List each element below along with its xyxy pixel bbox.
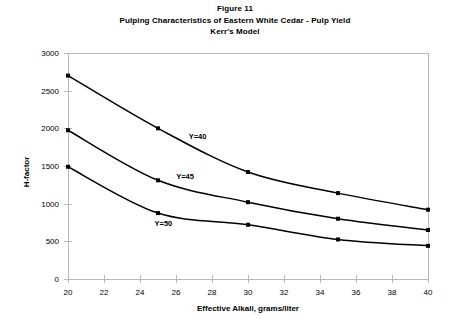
chart-container: Figure 11 Pulping Characteristics of Eas…: [0, 0, 470, 324]
data-point-marker: [426, 228, 430, 232]
x-tick-label: 24: [136, 288, 145, 297]
x-axis-tick-labels: 2022242628303234363840: [64, 288, 433, 297]
series-label-3: Y=50: [155, 219, 173, 228]
x-tick-label: 30: [244, 288, 253, 297]
y-tick-label: 3000: [41, 49, 59, 58]
y-tick-label: 500: [46, 237, 60, 246]
data-point-marker: [66, 74, 70, 78]
data-series-2: [66, 128, 430, 232]
data-series-1: [66, 74, 430, 212]
data-point-marker: [426, 244, 430, 248]
x-tick-label: 36: [352, 288, 361, 297]
data-point-marker: [426, 208, 430, 212]
y-tick-label: 2000: [41, 124, 59, 133]
axis-ticks: [64, 54, 429, 284]
x-tick-label: 26: [172, 288, 181, 297]
data-point-marker: [66, 165, 70, 169]
series-label-1: Y=40: [189, 132, 207, 141]
y-axis-title: H-factor: [22, 157, 31, 188]
data-point-marker: [336, 217, 340, 221]
y-tick-label: 1000: [41, 200, 59, 209]
x-tick-label: 38: [388, 288, 397, 297]
x-tick-label: 28: [208, 288, 217, 297]
series-line-3: [68, 167, 428, 246]
y-tick-label: 2500: [41, 87, 59, 96]
data-point-marker: [156, 178, 160, 182]
data-series-3: [66, 165, 430, 248]
y-tick-label: 1500: [41, 162, 59, 171]
x-tick-label: 40: [424, 288, 433, 297]
data-point-marker: [246, 223, 250, 227]
x-tick-label: 22: [100, 288, 109, 297]
plot-area: 050010001500200025003000 202224262830323…: [0, 0, 470, 324]
x-tick-label: 20: [64, 288, 73, 297]
data-point-marker: [156, 211, 160, 215]
data-point-marker: [336, 237, 340, 241]
plot-border: [69, 54, 429, 280]
plot-frame: [69, 54, 429, 280]
data-point-marker: [246, 200, 250, 204]
data-point-marker: [156, 126, 160, 130]
series-line-1: [68, 76, 428, 210]
data-point-marker: [66, 128, 70, 132]
data-point-marker: [336, 191, 340, 195]
series-line-2: [68, 130, 428, 230]
x-axis-title: Effective Alkali, grams/liter: [197, 304, 299, 313]
data-series-group: [66, 74, 430, 248]
y-tick-label: 0: [55, 275, 60, 284]
x-tick-label: 32: [280, 288, 289, 297]
y-axis-tick-labels: 050010001500200025003000: [41, 49, 59, 284]
x-tick-label: 34: [316, 288, 325, 297]
series-label-2: Y=45: [176, 172, 194, 181]
data-point-marker: [246, 170, 250, 174]
